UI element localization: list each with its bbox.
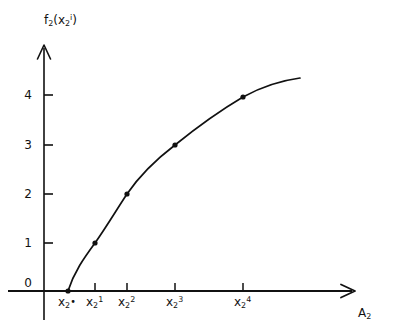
y-axis-title: f2(x2i) — [44, 14, 77, 28]
data-curve — [68, 78, 300, 291]
y-tick-label-3: 3 — [12, 139, 32, 151]
x-tick-label-1: x21 — [86, 296, 103, 310]
x-tick-label-0: x2• — [58, 296, 76, 310]
x-tick-label-2: x22 — [118, 296, 135, 310]
x-tick-label-4-sup: 4 — [246, 295, 251, 304]
x-tick-label-3: x23 — [166, 296, 183, 310]
chart-canvas — [0, 0, 394, 333]
x-tick-label-1-sup: 1 — [98, 295, 103, 304]
x-tick-label-4: x24 — [234, 296, 251, 310]
x-tick-label-0-sup: • — [70, 296, 76, 307]
y-tick-label-0: 0 — [12, 277, 32, 289]
x-axis-title-a-sub: 2 — [366, 312, 371, 321]
x-axis-title: A2 — [358, 307, 371, 321]
data-point-0 — [65, 288, 70, 293]
y-tick-label-4: 4 — [12, 89, 32, 101]
x-axis-title-a: A — [358, 306, 366, 320]
y-tick-label-2: 2 — [12, 188, 32, 200]
data-point-4 — [240, 94, 245, 99]
y-axis-title-x: x — [58, 13, 65, 27]
data-point-2 — [124, 191, 129, 196]
y-axis-title-close-paren: ) — [72, 13, 77, 27]
x-tick-label-2-sup: 2 — [130, 295, 135, 304]
x-tick-label-3-sup: 3 — [178, 295, 183, 304]
data-point-1 — [92, 240, 97, 245]
chart-figure: f2(x2i) A2 4 3 2 1 0 x2• x21 x22 x23 x24 — [0, 0, 394, 333]
y-tick-label-1: 1 — [12, 237, 32, 249]
data-point-3 — [172, 142, 177, 147]
